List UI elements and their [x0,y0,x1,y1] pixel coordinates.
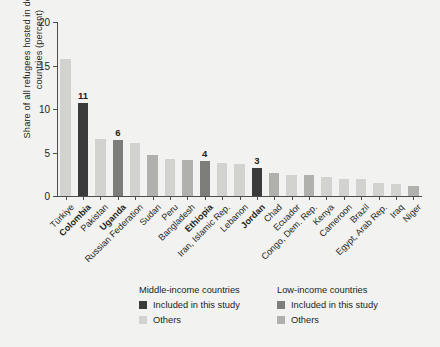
bar[interactable] [182,160,192,196]
x-tick-mark [118,196,119,200]
bar[interactable] [373,183,383,196]
bar[interactable] [269,173,279,196]
bar[interactable] [408,186,418,196]
y-tick-mark [53,153,57,154]
y-tick-mark [53,66,57,67]
bar[interactable] [321,177,331,196]
legend-swatch-icon [277,301,285,309]
x-tick-mark [205,196,206,200]
bar[interactable] [304,175,314,196]
legend-item-label: Others [291,315,319,325]
x-tick-mark [100,196,101,200]
x-tick-mark [170,196,171,200]
bar[interactable] [95,139,105,196]
bar[interactable]: 6 [113,140,123,196]
legend-swatch-icon [139,316,147,324]
legend-item[interactable]: Others [277,315,401,325]
bar[interactable]: 3 [252,168,262,196]
x-tick-mark [309,196,310,200]
x-tick-mark [344,196,345,200]
bar[interactable] [165,159,175,196]
bar[interactable] [130,143,140,196]
bar-value-label: 4 [202,148,207,159]
legend-column: Middle-income countriesIncluded in this … [139,285,263,330]
legend-item-label: Others [153,315,181,325]
legend-item[interactable]: Others [139,315,263,325]
bar[interactable] [147,155,157,196]
y-tick-label: 20 [39,17,50,28]
x-tick-mark [413,196,414,200]
x-tick-mark [257,196,258,200]
y-tick-label: 0 [44,191,50,202]
bar-value-label: 3 [254,155,259,166]
x-tick-mark [222,196,223,200]
bar[interactable] [234,164,244,196]
legend-column-title: Low-income countries [277,285,401,295]
bar[interactable] [60,59,70,196]
y-tick-label: 15 [39,60,50,71]
bar-value-label: 6 [115,127,120,138]
bar-value-label: 11 [78,90,88,101]
y-tick-mark [53,109,57,110]
bar[interactable] [391,184,401,196]
x-tick-mark [153,196,154,200]
bar[interactable]: 11 [78,103,88,196]
bar[interactable] [339,179,349,196]
legend-swatch-icon [139,301,147,309]
legend-item-label: Included in this study [291,300,378,310]
plot-area: 05101520 11643 [57,22,422,196]
y-axis-line [57,22,58,196]
legend-item-label: Included in this study [153,300,240,310]
legend: Middle-income countriesIncluded in this … [139,285,401,330]
legend-item[interactable]: Included in this study [277,300,401,310]
x-tick-mark [66,196,67,200]
legend-column-title: Middle-income countries [139,285,263,295]
y-tick-label: 5 [44,147,50,158]
x-tick-mark [292,196,293,200]
x-tick-mark [274,196,275,200]
x-tick-mark [326,196,327,200]
bar[interactable]: 4 [200,161,210,196]
legend-column: Low-income countriesIncluded in this stu… [277,285,401,330]
bar[interactable] [217,163,227,196]
x-tick-mark [361,196,362,200]
y-tick-mark [53,22,57,23]
x-axis-label: Niger [401,202,423,224]
y-tick-label: 10 [39,104,50,115]
bar-chart: Share of all refugees hosted in developi… [0,0,440,347]
x-tick-mark [135,196,136,200]
legend-swatch-icon [277,316,285,324]
x-tick-mark [187,196,188,200]
bar[interactable] [286,175,296,196]
x-tick-mark [83,196,84,200]
x-tick-mark [396,196,397,200]
y-tick-mark [53,196,57,197]
legend-item[interactable]: Included in this study [139,300,263,310]
x-tick-mark [240,196,241,200]
x-tick-mark [379,196,380,200]
bar[interactable] [356,179,366,196]
